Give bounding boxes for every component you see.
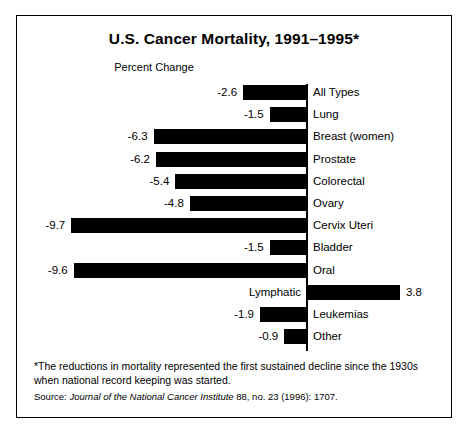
bar-category-label: Cervix Uteri	[313, 217, 373, 233]
bar-row: -9.6Oral	[17, 262, 453, 284]
bar	[243, 85, 306, 100]
bar-row: -1.5Lung	[17, 106, 453, 128]
bar-category-label: Lung	[313, 106, 339, 122]
bar-value-label: -5.4	[150, 173, 170, 189]
bar-value-label: -1.9	[234, 306, 254, 322]
bar	[284, 329, 306, 344]
bar-row: -2.6All Types	[17, 84, 453, 106]
bar-row: -1.5Bladder	[17, 239, 453, 261]
footnote-source: Source: Journal of the National Cancer I…	[34, 390, 438, 403]
bar	[154, 129, 306, 144]
bar-row: -0.9Other	[17, 328, 453, 350]
bar-row: -6.2Prostate	[17, 151, 453, 173]
bar-value-label: -0.9	[258, 328, 278, 344]
bar-row: -1.9Leukemias	[17, 306, 453, 328]
bar-category-label: Oral	[313, 262, 335, 278]
source-journal-name: Journal of the National Cancer Institute	[69, 391, 233, 402]
bar	[260, 307, 306, 322]
bar	[74, 263, 306, 278]
bar-value-label: -6.2	[130, 151, 150, 167]
bar	[270, 240, 306, 255]
footnote-note: *The reductions in mortality represented…	[34, 360, 438, 387]
bar-category-label: All Types	[313, 84, 359, 100]
bar	[175, 174, 306, 189]
bar-row: -6.3Breast (women)	[17, 128, 453, 150]
bar	[71, 218, 306, 233]
bar-value-label: -9.6	[48, 262, 68, 278]
source-prefix: Source:	[34, 391, 69, 402]
bar-row: 3.8Lymphatic	[17, 284, 453, 306]
bar-value-label: -4.8	[164, 195, 184, 211]
bar-value-label: -1.5	[244, 106, 264, 122]
bar-row: -5.4Colorectal	[17, 173, 453, 195]
bar-category-label: Bladder	[313, 239, 353, 255]
bar	[308, 285, 400, 300]
bar-category-label: Other	[313, 328, 342, 344]
bar-category-label: Lymphatic	[249, 284, 301, 300]
bar-value-label: -6.3	[128, 128, 148, 144]
axis-label-percent-change: Percent Change	[17, 61, 291, 73]
figure-panel: U.S. Cancer Mortality, 1991–1995* Percen…	[16, 15, 452, 418]
bar-category-label: Breast (women)	[313, 128, 394, 144]
plot-area: -2.6All Types-1.5Lung-6.3Breast (women)-…	[17, 84, 453, 352]
footnote-block: *The reductions in mortality represented…	[34, 360, 438, 403]
bar-row: -4.8Ovary	[17, 195, 453, 217]
bar-category-label: Prostate	[313, 151, 356, 167]
source-citation: 88, no. 23 (1996): 1707.	[234, 391, 338, 402]
chart-title: U.S. Cancer Mortality, 1991–1995*	[17, 30, 451, 48]
bar-category-label: Colorectal	[313, 173, 365, 189]
bar-category-label: Ovary	[313, 195, 344, 211]
bar-value-label: -9.7	[45, 217, 65, 233]
bar-value-label: -2.6	[217, 84, 237, 100]
bar	[270, 107, 306, 122]
bar	[190, 196, 306, 211]
bar-row: -9.7Cervix Uteri	[17, 217, 453, 239]
bar-category-label: Leukemias	[313, 306, 369, 322]
bar	[156, 152, 306, 167]
bar-value-label: 3.8	[406, 284, 422, 300]
bar-value-label: -1.5	[244, 239, 264, 255]
